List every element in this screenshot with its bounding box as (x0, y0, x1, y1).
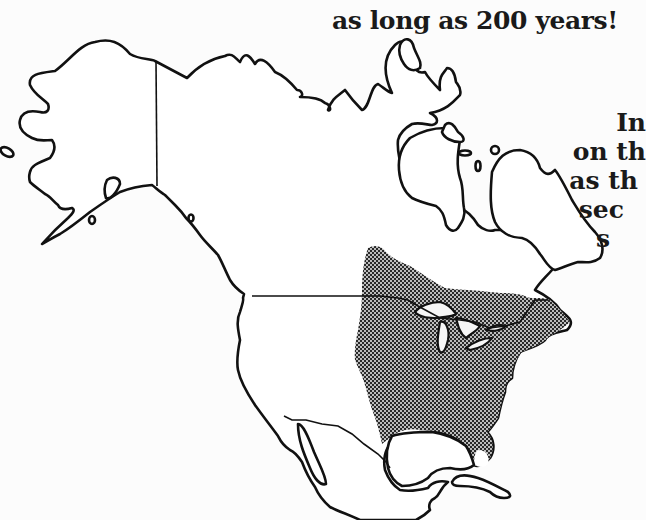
caption-side-line-1: In (446, 108, 646, 137)
cuba-outline (452, 475, 510, 498)
caption-side-line-5: s (446, 224, 610, 253)
st-lawrence-island (0, 145, 15, 159)
alaska-canada-border (156, 61, 157, 186)
bc-island (189, 215, 194, 222)
cook-inlet-island (105, 178, 120, 199)
caption-side-line-4: sec (446, 195, 624, 224)
caption-side-text: In on th as th sec s (446, 108, 646, 253)
book-page: as long as 200 years! In on th as th sec… (0, 0, 646, 520)
caption-top-line: as long as 200 years! (332, 6, 618, 35)
north-america-map (0, 0, 646, 520)
kodiak-island (89, 216, 95, 224)
caption-side-line-2: on th (446, 137, 646, 166)
caption-side-line-3: as th (446, 166, 638, 195)
